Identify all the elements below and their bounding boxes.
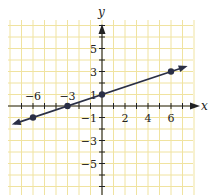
y-tick-label: −1 <box>81 112 97 125</box>
y-tick-label: 1 <box>90 89 97 102</box>
data-point <box>64 103 70 109</box>
y-tick-label: 3 <box>90 66 97 79</box>
line-arrow-left-icon <box>12 118 22 125</box>
x-axis-label: x <box>201 99 208 113</box>
coordinate-plane: −6−3246531−1−3−5 x y <box>0 0 209 195</box>
x-tick-label: 4 <box>145 112 152 125</box>
data-point <box>99 91 105 97</box>
y-tick-label: 5 <box>90 43 97 56</box>
x-tick-label: −3 <box>59 90 75 103</box>
data-point <box>168 68 174 74</box>
grid <box>8 20 194 195</box>
y-axis-label: y <box>97 5 105 19</box>
y-tick-label: −5 <box>81 158 97 171</box>
x-tick-label: −6 <box>25 90 41 103</box>
x-tick-label: 6 <box>168 112 175 125</box>
x-tick-label: 2 <box>122 112 129 125</box>
y-tick-label: −3 <box>81 135 97 148</box>
x-axis-arrow-icon <box>190 103 200 110</box>
data-point <box>30 114 36 120</box>
